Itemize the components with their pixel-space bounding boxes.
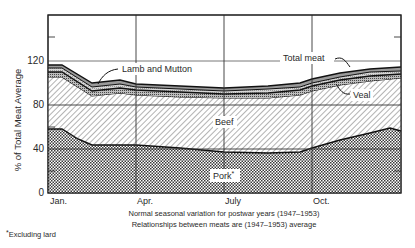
- pork-label-text: Pork: [213, 171, 232, 181]
- y-tick-0: 0: [38, 187, 44, 198]
- y-tick-80: 80: [33, 99, 45, 110]
- footnote-text: Excluding lard: [9, 230, 56, 239]
- caption-line-2: Relationships between meats are (1947–19…: [132, 220, 317, 229]
- x-tick-oct: Oct.: [313, 196, 330, 206]
- total-meat-label: Total meat: [283, 53, 325, 63]
- caption-line-1: Normal seasonal variation for postwar ye…: [129, 209, 320, 218]
- pork-label-star: *: [232, 170, 235, 177]
- y-tick-40: 40: [33, 143, 45, 154]
- beef-label: Beef: [215, 117, 234, 127]
- y-tick-120: 120: [27, 55, 44, 66]
- lamb-mutton-label: Lamb and Mutton: [122, 64, 192, 74]
- footnote: *Excluding lard: [6, 229, 56, 239]
- pork-label: Pork*: [213, 170, 235, 181]
- y-axis-label: % of Total Meat Average: [12, 69, 23, 172]
- x-tick-apr: Apr.: [137, 196, 153, 206]
- x-tick-jan: Jan.: [50, 196, 67, 206]
- x-tick-july: July: [225, 196, 242, 206]
- stacked-area-chart: 120 80 40 0 % of Total Meat Average Jan.…: [0, 0, 415, 248]
- veal-label: Veal: [353, 90, 371, 100]
